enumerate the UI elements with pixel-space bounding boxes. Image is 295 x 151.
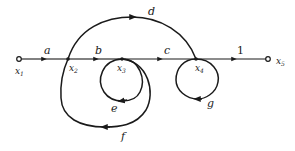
label-x5: x5 <box>276 56 285 67</box>
label-x3: x3 <box>117 63 126 74</box>
node-x2 <box>66 57 70 61</box>
node-x3 <box>120 57 124 61</box>
gain-c: c <box>164 44 170 57</box>
gain-a: a <box>44 44 51 57</box>
gain-b: b <box>95 44 102 57</box>
gain-g: g <box>207 97 214 110</box>
label-x2: x2 <box>69 63 78 74</box>
signal-flow-graph: a b c 1 d e f g x1 x2 x3 x4 x5 <box>0 0 295 151</box>
node-x4 <box>194 57 198 61</box>
node-x5 <box>266 57 271 62</box>
gain-f: f <box>120 130 127 143</box>
gain-e: e <box>111 102 118 115</box>
label-x1: x1 <box>15 66 24 77</box>
gain-1: 1 <box>237 44 244 57</box>
branch-e-arrow <box>121 100 127 101</box>
gain-d: d <box>148 5 155 18</box>
node-x1 <box>17 57 22 62</box>
label-x4: x4 <box>195 63 204 74</box>
